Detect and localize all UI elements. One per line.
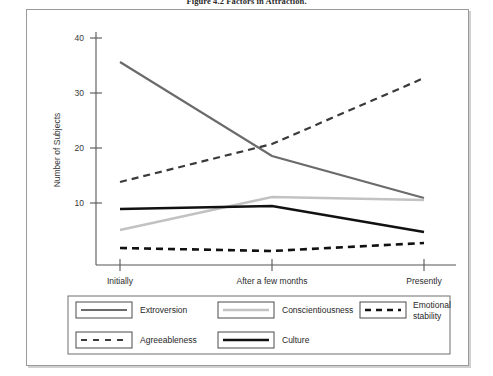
legend-label-emotional-stability: Emotional	[413, 300, 451, 310]
y-tick-label-10: 10	[75, 198, 85, 208]
legend-item-extroversion[interactable]: Extroversion	[76, 302, 188, 318]
legend: Extroversion Conscientiousness Emotional…	[68, 296, 451, 354]
legend-label-culture: Culture	[282, 335, 310, 345]
y-tick-label-20: 20	[75, 143, 85, 153]
series-line-emotional-stability	[120, 243, 424, 251]
x-label-after-a-few-months: After a few months	[237, 276, 308, 286]
x-label-initially: Initially	[107, 276, 134, 286]
legend-label-emotional-stability-line2: stability	[413, 311, 442, 321]
series-line-agreeableness	[120, 78, 424, 182]
legend-item-agreeableness[interactable]: Agreeableness	[76, 332, 197, 348]
x-label-presently: Presently	[406, 276, 442, 286]
legend-item-emotional-stability[interactable]: Emotional stability	[360, 300, 451, 321]
series-group	[120, 62, 424, 251]
legend-item-culture[interactable]: Culture	[218, 332, 310, 348]
series-line-extroversion	[120, 62, 424, 198]
chart-svg: 40 30 20 10 Number of Subjects Initially…	[0, 0, 493, 376]
legend-label-conscientiousness: Conscientiousness	[282, 305, 353, 315]
y-axis-title: Number of Subjects	[52, 113, 62, 188]
y-tick-label-40: 40	[75, 33, 85, 43]
legend-item-conscientiousness[interactable]: Conscientiousness	[218, 302, 353, 318]
line-chart: 40 30 20 10 Number of Subjects Initially…	[0, 0, 493, 376]
y-tick-label-30: 30	[75, 88, 85, 98]
legend-label-agreeableness: Agreeableness	[140, 335, 197, 345]
legend-label-extroversion: Extroversion	[140, 305, 188, 315]
